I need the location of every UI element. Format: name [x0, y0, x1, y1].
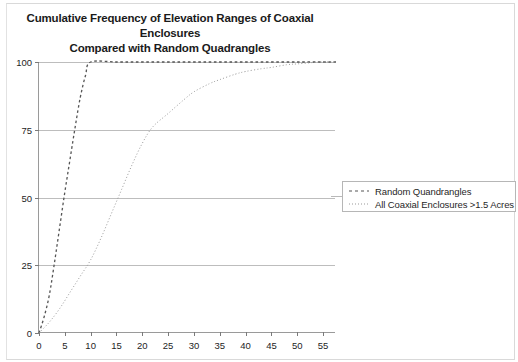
x-tick-label: 50: [292, 340, 303, 351]
x-tick-label: 35: [214, 340, 225, 351]
y-tick-label: 25: [21, 260, 32, 271]
x-tick-label: 15: [111, 340, 122, 351]
series-line-0: [39, 61, 336, 333]
legend-swatch-dotted-icon: [348, 200, 370, 208]
x-tick-label: 5: [62, 340, 67, 351]
y-tick-label: 100: [16, 57, 32, 68]
x-tick-label: 10: [85, 340, 96, 351]
y-tick-label: 0: [27, 328, 32, 339]
legend-label-0: Random Quandrangles: [375, 186, 471, 197]
x-tick-label: 55: [318, 340, 329, 351]
x-tick-label: 0: [36, 340, 41, 351]
plot-area: 0255075100 0510152025303540455055: [38, 62, 335, 333]
x-tick-label: 40: [240, 340, 251, 351]
y-tick-label: 50: [21, 192, 32, 203]
plot-wrap: 0255075100 0510152025303540455055: [38, 62, 335, 333]
chart-title-line-1: Cumulative Frequency of Elevation Ranges…: [27, 12, 314, 39]
series-lines: [39, 62, 336, 333]
legend-connector: [331, 196, 342, 197]
chart-figure: Cumulative Frequency of Elevation Ranges…: [0, 0, 518, 362]
legend-item-random-quandrangles: Random Quandrangles: [348, 185, 515, 197]
x-tick-label: 25: [163, 340, 174, 351]
bottom-caption: [10, 355, 340, 362]
x-tick-label: 20: [137, 340, 148, 351]
chart-title: Cumulative Frequency of Elevation Ranges…: [0, 11, 340, 56]
legend-item-all-coaxial-enclosures: All Coaxial Enclosures >1.5 Acres: [348, 198, 515, 210]
chart-title-line-2: Compared with Random Quadrangles: [0, 41, 340, 56]
legend-swatch-dashed-icon: [348, 187, 370, 195]
series-line-1: [39, 62, 336, 333]
x-tick-label: 45: [266, 340, 277, 351]
chart-legend: Random Quandrangles All Coaxial Enclosur…: [342, 181, 516, 212]
y-tick-label: 75: [21, 124, 32, 135]
legend-label-1: All Coaxial Enclosures >1.5 Acres: [375, 199, 514, 210]
x-tick-label: 30: [189, 340, 200, 351]
